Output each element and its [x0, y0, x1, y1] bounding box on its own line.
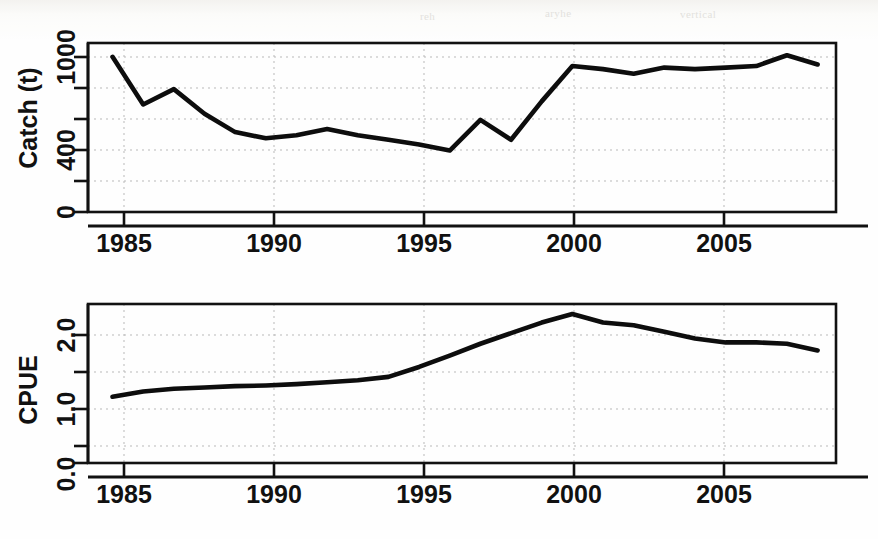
cpue-ytick-1: 1.0: [52, 392, 80, 427]
catch-xtick-1995: 1995: [396, 229, 452, 257]
cpue-ytick-0: 0.0: [52, 457, 80, 492]
catch-xtick-2005: 2005: [696, 229, 752, 257]
catch-xtick-1985: 1985: [96, 229, 152, 257]
catch-axis-title: Catch (t): [14, 67, 42, 168]
cpue-axis-title: CPUE: [14, 355, 42, 424]
cpue-x-axis: [88, 463, 868, 477]
cpue-xtick-1990: 1990: [246, 480, 302, 508]
catch-series-line: [113, 55, 818, 150]
catch-xtick-2000: 2000: [546, 229, 602, 257]
catch-panel: 1000 400 0 Catch (t) 1985 1990 1995 2000…: [0, 0, 878, 262]
cpue-chart-svg: 2.0 1.0 0.0 CPUE 1985 1990 1995 2000 200…: [0, 262, 878, 539]
catch-ytick-0: 0: [52, 205, 80, 219]
cpue-xtick-2005: 2005: [696, 480, 752, 508]
catch-xtick-1990: 1990: [246, 229, 302, 257]
catch-ytick-400: 400: [52, 129, 80, 171]
catch-ytick-1000: 1000: [52, 29, 80, 85]
cpue-xtick-1995: 1995: [396, 480, 452, 508]
cpue-ytick-2: 2.0: [52, 318, 80, 353]
cpue-panel: 2.0 1.0 0.0 CPUE 1985 1990 1995 2000 200…: [0, 262, 878, 539]
cpue-gridlines: [88, 304, 836, 463]
cpue-xtick-1985: 1985: [96, 480, 152, 508]
catch-x-axis: [88, 212, 868, 226]
figure-canvas: vertical reh aryhe: [0, 0, 878, 539]
cpue-xtick-2000: 2000: [546, 480, 602, 508]
catch-chart-svg: 1000 400 0 Catch (t) 1985 1990 1995 2000…: [0, 0, 878, 262]
cpue-series-line: [113, 314, 818, 397]
